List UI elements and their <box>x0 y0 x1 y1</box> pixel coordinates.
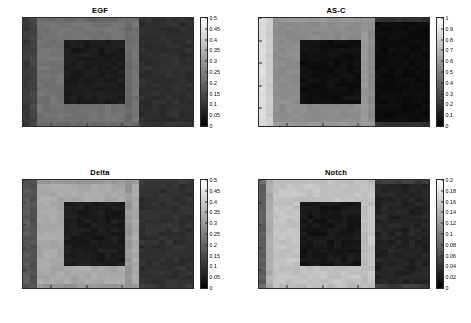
colorbar-tick-mark-as-c <box>441 50 443 51</box>
panel-notch: Notch51015202551015202500.020.040.060.08… <box>236 162 471 323</box>
colorbar-tick-mark-egf <box>205 82 207 83</box>
colorbar-tick-label-notch: 0.18 <box>446 188 457 194</box>
colorbar-tick-label-delta: 0 <box>210 285 213 291</box>
heatmap-image-egf <box>23 18 193 126</box>
y-tick-mark-notch <box>259 225 262 226</box>
colorbar-tick-mark-delta <box>205 255 207 256</box>
colorbar-tick-label-notch: 0.04 <box>446 263 457 269</box>
colorbar-tick-label-egf: 0 <box>210 123 213 129</box>
panel-title-egf: EGF <box>0 6 200 15</box>
colorbar-tick-mark-notch <box>441 255 443 256</box>
colorbar-tick-mark-notch <box>441 212 443 213</box>
y-tick-mark-notch <box>259 247 262 248</box>
colorbar-tick-mark-notch <box>441 288 443 289</box>
colorbar-tick-label-egf: 0.45 <box>210 26 221 32</box>
colorbar-tick-mark-as-c <box>441 82 443 83</box>
colorbar-tick-mark-notch <box>441 234 443 235</box>
x-tick-mark-as-c <box>287 123 288 126</box>
colorbar-tick-mark-as-c <box>441 126 443 127</box>
y-tick-mark-egf <box>23 63 26 64</box>
colorbar-tick-mark-delta <box>205 201 207 202</box>
colorbar-notch[interactable]: 00.020.040.060.080.10.120.140.160.180.2 <box>436 179 444 289</box>
colorbar-tick-label-notch: 0.12 <box>446 220 457 226</box>
x-tick-mark-as-c <box>429 123 430 126</box>
y-tick-mark-notch <box>259 202 262 203</box>
heatmap-axes-as-c[interactable]: 510152025510152025 <box>258 17 430 127</box>
colorbar-tick-mark-as-c <box>441 93 443 94</box>
panel-title-notch: Notch <box>236 168 436 177</box>
colorbar-tick-label-notch: 0.14 <box>446 209 457 215</box>
colorbar-tick-label-egf: 0.4 <box>210 37 218 43</box>
colorbar-tick-label-delta: 0.2 <box>210 242 218 248</box>
colorbar-tick-label-delta: 0.1 <box>210 263 218 269</box>
colorbar-delta[interactable]: 00.050.10.150.20.250.30.350.40.450.5 <box>200 179 208 289</box>
colorbar-tick-mark-as-c <box>441 104 443 105</box>
y-tick-mark-delta <box>23 225 26 226</box>
colorbar-tick-mark-notch <box>441 180 443 181</box>
colorbar-tick-label-notch: 0.08 <box>446 242 457 248</box>
colorbar-tick-label-as-c: 0.1 <box>446 112 454 118</box>
colorbar-tick-label-as-c: 1 <box>446 15 449 21</box>
colorbar-tick-label-egf: 0.25 <box>210 69 221 75</box>
figure-canvas: EGF51015202551015202500.050.10.150.20.25… <box>0 0 471 323</box>
colorbar-tick-label-as-c: 0.5 <box>446 69 454 75</box>
y-tick-mark-as-c <box>259 63 262 64</box>
heatmap-axes-delta[interactable]: 510152025510152025 <box>22 179 194 289</box>
colorbar-egf[interactable]: 00.050.10.150.20.250.30.350.40.450.5 <box>200 17 208 127</box>
y-tick-mark-delta <box>23 180 26 181</box>
colorbar-tick-label-egf: 0.2 <box>210 80 218 86</box>
colorbar-tick-label-delta: 0.25 <box>210 231 221 237</box>
x-tick-mark-notch <box>322 285 323 288</box>
panel-as-c: AS-C51015202551015202500.10.20.30.40.50.… <box>236 0 471 161</box>
colorbar-tick-label-notch: 0.1 <box>446 231 454 237</box>
y-tick-mark-as-c <box>259 18 262 19</box>
colorbar-tick-label-as-c: 0.4 <box>446 80 454 86</box>
colorbar-tick-label-delta: 0.35 <box>210 209 221 215</box>
colorbar-tick-label-egf: 0.1 <box>210 101 218 107</box>
x-tick-mark-delta <box>157 285 158 288</box>
x-tick-mark-delta <box>51 285 52 288</box>
x-tick-mark-delta <box>86 285 87 288</box>
colorbar-tick-mark-as-c <box>441 72 443 73</box>
x-tick-mark-notch <box>393 285 394 288</box>
colorbar-tick-mark-as-c <box>441 61 443 62</box>
colorbar-tick-label-as-c: 0.2 <box>446 101 454 107</box>
colorbar-tick-label-notch: 0.16 <box>446 199 457 205</box>
colorbar-tick-mark-delta <box>205 190 207 191</box>
colorbar-tick-mark-notch <box>441 266 443 267</box>
colorbar-tick-label-as-c: 0.8 <box>446 37 454 43</box>
colorbar-tick-label-notch: 0.02 <box>446 274 457 280</box>
colorbar-tick-mark-delta <box>205 180 207 181</box>
colorbar-tick-label-as-c: 0.7 <box>446 47 454 53</box>
x-tick-mark-as-c <box>322 123 323 126</box>
colorbar-tick-mark-delta <box>205 234 207 235</box>
y-tick-mark-egf <box>23 85 26 86</box>
colorbar-tick-mark-delta <box>205 212 207 213</box>
x-tick-mark-egf <box>157 123 158 126</box>
colorbar-tick-label-egf: 0.5 <box>210 15 218 21</box>
colorbar-tick-mark-as-c <box>441 28 443 29</box>
colorbar-tick-label-egf: 0.35 <box>210 47 221 53</box>
y-tick-mark-egf <box>23 108 26 109</box>
panel-title-delta: Delta <box>0 168 200 177</box>
x-tick-mark-egf <box>122 123 123 126</box>
heatmap-axes-notch[interactable]: 510152025510152025 <box>258 179 430 289</box>
heatmap-axes-egf[interactable]: 510152025510152025 <box>22 17 194 127</box>
colorbar-as-c[interactable]: 00.10.20.30.40.50.60.70.80.91 <box>436 17 444 127</box>
colorbar-tick-mark-notch <box>441 190 443 191</box>
colorbar-tick-label-as-c: 0.3 <box>446 91 454 97</box>
colorbar-tick-mark-delta <box>205 277 207 278</box>
colorbar-tick-mark-egf <box>205 115 207 116</box>
colorbar-tick-mark-egf <box>205 39 207 40</box>
colorbar-tick-mark-notch <box>441 244 443 245</box>
y-tick-mark-delta <box>23 202 26 203</box>
colorbar-tick-label-delta: 0.3 <box>210 220 218 226</box>
heatmap-image-delta <box>23 180 193 288</box>
colorbar-tick-mark-egf <box>205 61 207 62</box>
x-tick-mark-notch <box>358 285 359 288</box>
colorbar-tick-label-delta: 0.5 <box>210 177 218 183</box>
colorbar-tick-label-as-c: 0.9 <box>446 26 454 32</box>
colorbar-tick-label-delta: 0.05 <box>210 274 221 280</box>
panel-egf: EGF51015202551015202500.050.10.150.20.25… <box>0 0 235 161</box>
colorbar-tick-label-as-c: 0 <box>446 123 449 129</box>
